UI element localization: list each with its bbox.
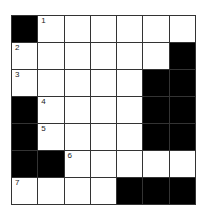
clue-number: 2 <box>15 44 19 52</box>
crossword-cell[interactable]: 3 <box>12 70 38 97</box>
crossword-cell[interactable]: 5 <box>38 124 64 151</box>
black-square <box>170 97 196 124</box>
clue-number: 3 <box>15 71 19 79</box>
crossword-cell[interactable] <box>117 124 143 151</box>
crossword-cell[interactable] <box>38 178 64 205</box>
black-square <box>143 178 169 205</box>
black-square <box>12 97 38 124</box>
crossword-cell[interactable] <box>170 151 196 178</box>
crossword-cell[interactable]: 6 <box>65 151 91 178</box>
black-square <box>38 151 64 178</box>
crossword-cell[interactable]: 2 <box>12 43 38 70</box>
crossword-cell[interactable] <box>91 151 117 178</box>
crossword-cell[interactable] <box>117 16 143 43</box>
crossword-cell[interactable] <box>117 70 143 97</box>
crossword-cell[interactable]: 1 <box>38 16 64 43</box>
crossword-cell[interactable] <box>91 124 117 151</box>
crossword-cell[interactable] <box>143 151 169 178</box>
black-square <box>12 16 38 43</box>
crossword-cell[interactable] <box>91 70 117 97</box>
crossword-cell[interactable] <box>117 97 143 124</box>
crossword-cell[interactable] <box>117 43 143 70</box>
clue-number: 5 <box>41 125 45 133</box>
crossword-cell[interactable] <box>65 97 91 124</box>
black-square <box>12 151 38 178</box>
crossword-cell[interactable] <box>91 43 117 70</box>
clue-number: 1 <box>41 17 45 25</box>
clue-number: 6 <box>68 152 72 160</box>
clue-number: 4 <box>41 98 45 106</box>
crossword-cell[interactable] <box>91 16 117 43</box>
crossword-cell[interactable] <box>65 70 91 97</box>
crossword-cell[interactable] <box>91 178 117 205</box>
crossword-cell[interactable] <box>143 16 169 43</box>
crossword-cell[interactable] <box>65 16 91 43</box>
black-square <box>170 70 196 97</box>
crossword-grid: 1234567 <box>11 15 196 205</box>
black-square <box>143 70 169 97</box>
black-square <box>143 124 169 151</box>
crossword-cell[interactable]: 7 <box>12 178 38 205</box>
crossword-cell[interactable] <box>65 178 91 205</box>
crossword-cell[interactable] <box>91 97 117 124</box>
crossword-cell[interactable] <box>170 16 196 43</box>
black-square <box>170 178 196 205</box>
black-square <box>143 97 169 124</box>
black-square <box>170 124 196 151</box>
crossword-cell[interactable] <box>65 124 91 151</box>
black-square <box>117 178 143 205</box>
crossword-cell[interactable] <box>65 43 91 70</box>
crossword-cell[interactable] <box>143 43 169 70</box>
crossword-cell[interactable] <box>117 151 143 178</box>
crossword-cell[interactable]: 4 <box>38 97 64 124</box>
crossword-cell[interactable] <box>38 70 64 97</box>
black-square <box>170 43 196 70</box>
crossword-cell[interactable] <box>38 43 64 70</box>
black-square <box>12 124 38 151</box>
clue-number: 7 <box>15 179 19 187</box>
